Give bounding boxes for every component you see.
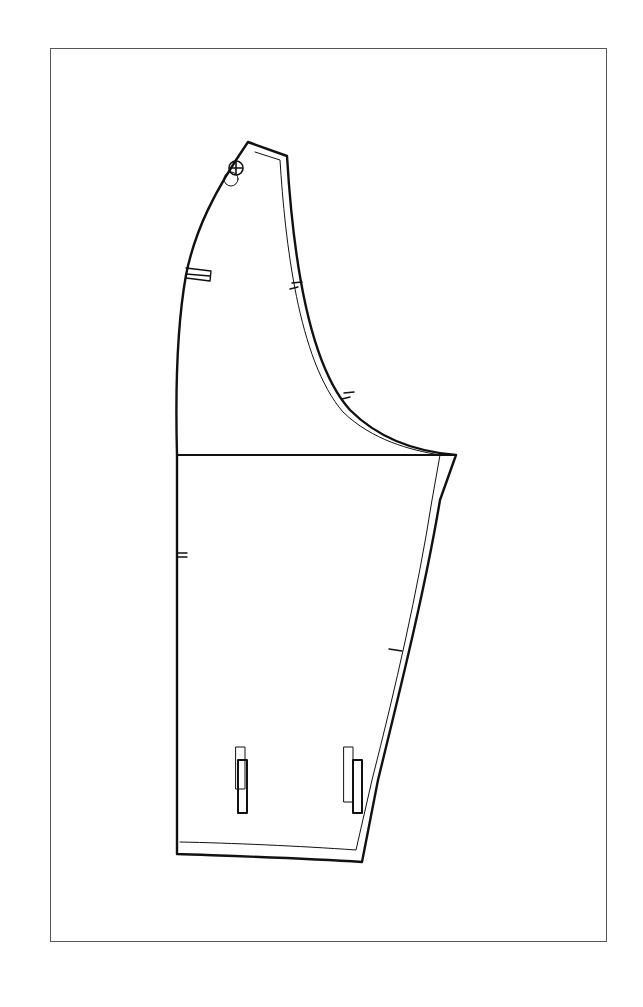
sleeve-outline [176,142,456,862]
placement-marker-left [186,268,211,281]
cuff-vent-marker-right [344,747,362,813]
cuff-vent-marker-left [236,747,247,813]
seam-allowance-line [180,152,440,850]
notch-marks [177,282,402,651]
sleeve-pattern-drawing [0,0,643,1007]
